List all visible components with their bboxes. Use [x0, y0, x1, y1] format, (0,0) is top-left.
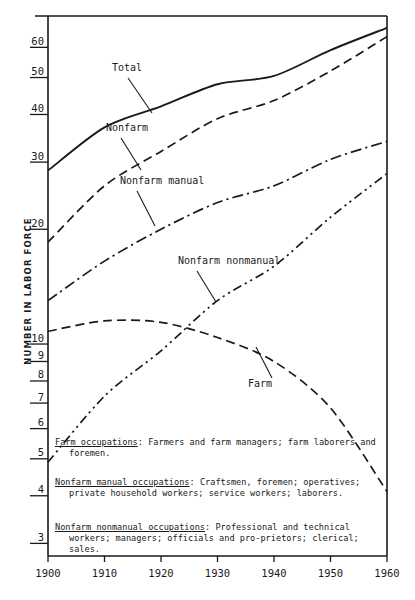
note-term: Farm occupations — [55, 437, 138, 447]
y-tick-label: 7 — [38, 391, 44, 403]
y-tick-label: 9 — [38, 349, 44, 361]
note-term: Nonfarm manual occupations — [55, 477, 190, 487]
series-line-nonfarm-manual — [48, 141, 387, 300]
y-tick-label: 10 — [31, 332, 44, 344]
x-tick-label: 1950 — [318, 567, 343, 579]
y-tick-label: 20 — [31, 217, 44, 229]
series-line-total — [48, 28, 387, 171]
x-tick-label: 1960 — [374, 567, 399, 579]
y-tick-label: 6 — [38, 416, 44, 428]
series-label-total: Total — [112, 62, 142, 73]
y-tick-label: 60 — [31, 35, 44, 47]
note-term: Nonfarm nonmanual occupations — [55, 522, 205, 532]
leader-line — [137, 191, 155, 226]
y-tick-label: 40 — [31, 102, 44, 114]
note-nonfarm-manual-occupations: Nonfarm manual occupations: Craftsmen, f… — [55, 477, 385, 499]
y-tick-label: 4 — [38, 483, 44, 495]
chart-root: NUMBER IN LABOR FORCE 345678910203040506… — [0, 0, 415, 600]
leader-line — [121, 138, 141, 170]
series-label-nonfarm: Nonfarm — [106, 122, 148, 133]
x-tick-label: 1930 — [205, 567, 230, 579]
series-line-farm — [48, 320, 387, 492]
y-tick-label: 8 — [38, 368, 44, 380]
note-nonfarm-nonmanual-occupations: Nonfarm nonmanual occupations: Professio… — [55, 522, 385, 556]
series-label-nonfarm-manual: Nonfarm manual — [120, 175, 204, 186]
x-tick-label: 1920 — [148, 567, 173, 579]
series-label-nonfarm-nonmanual: Nonfarm nonmanual — [178, 255, 280, 266]
series-line-nonfarm — [48, 37, 387, 243]
chart-plot-area: 3456789102030405060190019101920193019401… — [0, 0, 415, 600]
leader-line — [128, 78, 152, 113]
annotation-layer: TotalNonfarmNonfarm manualNonfarm nonman… — [106, 62, 280, 389]
leader-line — [256, 347, 272, 378]
x-tick-label: 1910 — [92, 567, 117, 579]
y-tick-label: 30 — [31, 150, 44, 162]
y-tick-label: 5 — [38, 446, 44, 458]
series-line-nonfarm-nonmanual — [48, 174, 387, 463]
leader-line — [197, 271, 216, 302]
series-label-farm: Farm — [248, 378, 272, 389]
x-tick-label: 1940 — [261, 567, 286, 579]
x-tick-label: 1900 — [35, 567, 60, 579]
y-tick-label: 50 — [31, 65, 44, 77]
note-farm-occupations: Farm occupations: Farmers and farm manag… — [55, 437, 385, 459]
y-tick-label: 3 — [38, 531, 44, 543]
